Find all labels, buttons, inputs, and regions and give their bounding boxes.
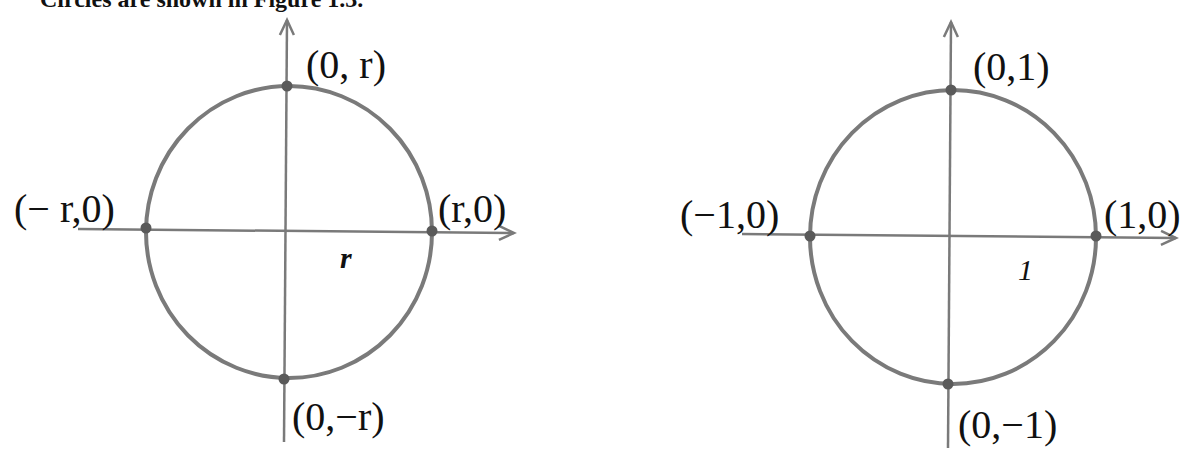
point-right xyxy=(1091,231,1102,242)
label-top: (0,1) xyxy=(973,44,1050,89)
right-circle-diagram: (0,1) (0,−1) (−1,0) (1,0) 1 xyxy=(680,22,1181,448)
point-right xyxy=(427,226,438,237)
label-bottom: (0,−1) xyxy=(958,402,1057,447)
point-left xyxy=(805,231,816,242)
label-radius: r xyxy=(340,241,352,274)
circle-diagrams: (0, r) (0,−r) (− r,0) (r,0) r (0,1) (0,−… xyxy=(0,0,1193,466)
left-circle-diagram: (0, r) (0,−r) (− r,0) (r,0) r xyxy=(14,20,514,442)
label-left: (−1,0) xyxy=(680,192,779,237)
point-top xyxy=(282,81,293,92)
label-radius: 1 xyxy=(1018,253,1033,286)
point-bottom xyxy=(279,374,290,385)
label-top: (0, r) xyxy=(306,42,386,87)
label-bottom: (0,−r) xyxy=(292,394,385,439)
label-right: (1,0) xyxy=(1104,192,1181,237)
point-bottom xyxy=(943,379,954,390)
point-left xyxy=(141,223,152,234)
label-left: (− r,0) xyxy=(14,186,115,231)
point-top xyxy=(946,85,957,96)
label-right: (r,0) xyxy=(438,186,506,231)
